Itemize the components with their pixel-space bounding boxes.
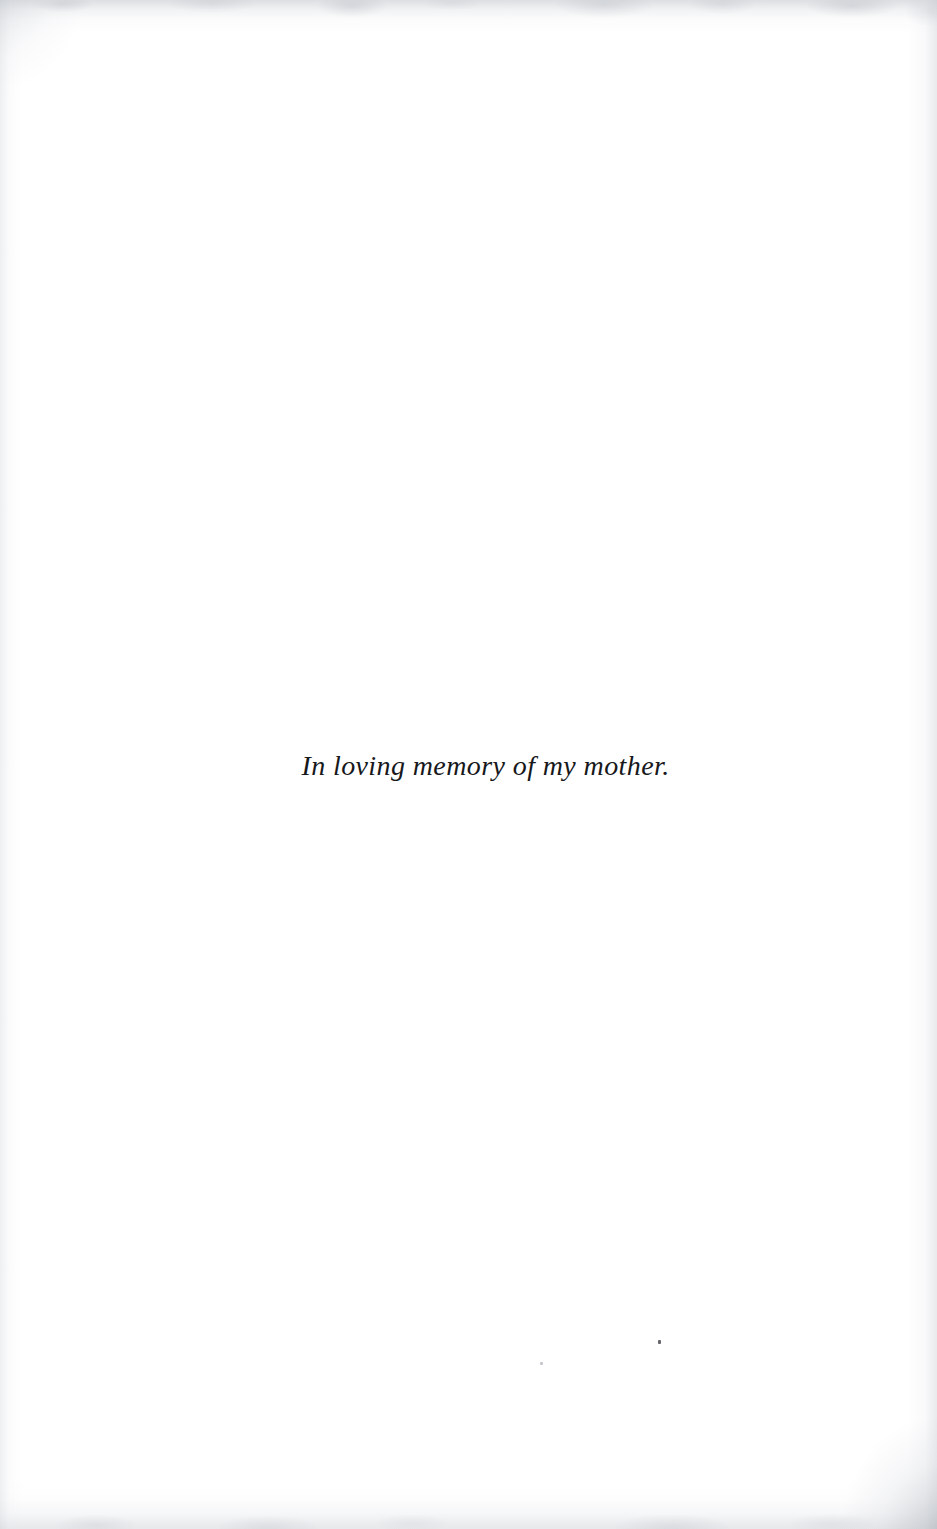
scan-corner-shadow-top-left xyxy=(0,0,110,120)
scan-edge-mottle-bottom xyxy=(0,1489,937,1529)
dust-speck-dark xyxy=(658,1340,661,1344)
scan-edge-shadow-top xyxy=(0,0,937,34)
dedication-text: In loving memory of my mother. xyxy=(301,749,669,783)
scan-corner-shadow-bottom-right xyxy=(807,1379,937,1529)
dust-speck-light xyxy=(540,1362,543,1365)
dedication-block: In loving memory of my mother. xyxy=(0,749,937,783)
scan-edge-shadow-bottom xyxy=(0,1483,937,1529)
dedication-page: In loving memory of my mother. xyxy=(0,0,937,1529)
scan-edge-mottle-top xyxy=(0,0,937,30)
